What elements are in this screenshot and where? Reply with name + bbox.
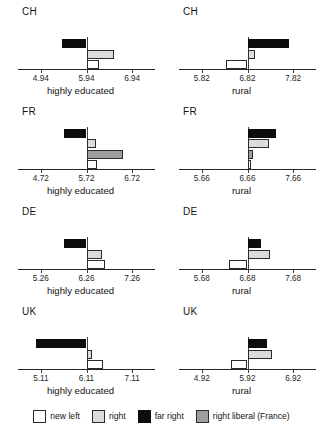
- bar-farright: [62, 39, 86, 48]
- panel-de-rural: DE5.686.687.68rural: [161, 204, 322, 302]
- x-axis-title: highly educated: [0, 385, 161, 396]
- bar-right: [87, 250, 102, 259]
- x-tick-label: 6.94: [124, 74, 140, 83]
- axis-tick: [202, 170, 203, 173]
- axis-tick: [132, 70, 133, 73]
- plot-area: [161, 322, 322, 370]
- axis-tick: [202, 270, 203, 273]
- legend-label-farright: far right: [155, 411, 184, 421]
- plot-area: [161, 122, 322, 170]
- plot-area: [0, 122, 161, 170]
- bar-farright: [248, 239, 262, 248]
- axis-tick: [248, 70, 249, 73]
- legend-item-rightlib: right liberal (France): [196, 410, 290, 423]
- plot-area: [161, 22, 322, 70]
- bar-farright: [248, 339, 268, 348]
- axis-tick: [248, 270, 249, 273]
- panel-ch-highly-educated: CH4.945.946.94highly educated: [0, 4, 161, 102]
- axis-tick: [87, 270, 88, 273]
- x-tick-label: 4.94: [33, 74, 49, 83]
- bar-farright: [248, 129, 277, 138]
- x-tick-label: 7.68: [285, 274, 301, 283]
- x-tick-label: 7.11: [124, 374, 139, 383]
- axis-tick: [248, 370, 249, 373]
- axis-tick: [87, 370, 88, 373]
- legend-item-farright: far right: [138, 410, 184, 423]
- x-axis-title: highly educated: [0, 185, 161, 196]
- x-tick-label: 5.68: [194, 274, 210, 283]
- x-tick-label: 5.92: [240, 374, 256, 383]
- bar-right: [87, 139, 96, 148]
- legend-label-right: right: [109, 411, 126, 421]
- bar-newleft: [229, 260, 247, 269]
- axis-tick: [293, 70, 294, 73]
- bar-farright: [64, 239, 87, 248]
- panel-country-label: CH: [22, 6, 37, 17]
- legend-item-right: right: [92, 410, 126, 423]
- axis-tick: [248, 170, 249, 173]
- legend-swatch-farright: [138, 410, 151, 423]
- x-axis-title: highly educated: [0, 285, 161, 296]
- x-tick-label: 6.68: [240, 274, 256, 283]
- axis-tick: [132, 170, 133, 173]
- bar-rightlib: [87, 150, 124, 159]
- axis-tick: [41, 370, 42, 373]
- bar-farright: [64, 129, 87, 138]
- x-tick-label: 4.92: [194, 374, 210, 383]
- x-tick-label: 7.66: [285, 174, 301, 183]
- axis-tick: [293, 370, 294, 373]
- bar-right: [248, 50, 256, 59]
- bar-farright: [36, 339, 86, 348]
- legend-label-newleft: new left: [50, 411, 80, 421]
- panel-country-label: FR: [183, 106, 197, 117]
- legend-swatch-right: [92, 410, 105, 423]
- bar-newleft: [87, 260, 105, 269]
- axis-tick: [202, 70, 203, 73]
- axis-tick: [202, 370, 203, 373]
- x-tick-label: 5.94: [79, 74, 95, 83]
- bar-newleft: [248, 160, 251, 169]
- plot-area: [161, 222, 322, 270]
- axis-tick: [132, 370, 133, 373]
- axis-tick: [132, 270, 133, 273]
- bar-newleft: [87, 360, 104, 369]
- bar-newleft: [87, 60, 99, 69]
- panel-country-label: DE: [183, 206, 198, 217]
- axis-tick: [87, 70, 88, 73]
- x-tick-label: 6.82: [240, 74, 256, 83]
- chart-figure: CH4.945.946.94highly educatedCH5.826.827…: [0, 0, 323, 435]
- bar-newleft: [87, 160, 98, 169]
- x-tick-label: 6.11: [79, 374, 94, 383]
- axis-tick: [293, 170, 294, 173]
- axis-tick: [87, 170, 88, 173]
- x-axis-title: highly educated: [0, 85, 161, 96]
- bar-right: [87, 50, 114, 59]
- bar-right: [248, 250, 271, 259]
- legend-swatch-rightlib: [196, 410, 209, 423]
- plot-area: [0, 322, 161, 370]
- legend-swatch-newleft: [33, 410, 46, 423]
- bar-newleft: [226, 60, 247, 69]
- bar-right: [248, 139, 269, 148]
- chart-legend: new leftrightfar rightright liberal (Fra…: [0, 404, 323, 428]
- panel-fr-highly-educated: FR4.725.726.72highly educated: [0, 104, 161, 202]
- x-tick-label: 7.82: [285, 74, 301, 83]
- legend-item-newleft: new left: [33, 410, 80, 423]
- x-tick-label: 6.92: [285, 374, 301, 383]
- x-tick-label: 5.11: [33, 374, 48, 383]
- panel-country-label: UK: [183, 306, 198, 317]
- bar-rightlib: [248, 150, 254, 159]
- plot-area: [0, 222, 161, 270]
- bar-right: [87, 350, 93, 359]
- bar-farright: [248, 39, 289, 48]
- x-axis-title: rural: [161, 285, 322, 296]
- x-axis-title: rural: [161, 385, 322, 396]
- panel-country-label: DE: [22, 206, 37, 217]
- legend-label-rightlib: right liberal (France): [213, 411, 290, 421]
- axis-tick: [41, 170, 42, 173]
- axis-tick: [293, 270, 294, 273]
- x-tick-label: 5.72: [79, 174, 95, 183]
- panel-uk-highly-educated: UK5.116.117.11highly educated: [0, 304, 161, 402]
- x-tick-label: 6.26: [79, 274, 95, 283]
- plot-area: [0, 22, 161, 70]
